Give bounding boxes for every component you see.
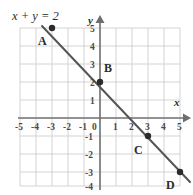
x-tick-label: 4 xyxy=(161,122,166,132)
data-point-b xyxy=(97,79,103,85)
y-tick-labels-positive: 5 4 3 2 1 xyxy=(90,24,95,106)
equation-label: x + y = 2 xyxy=(11,9,59,23)
y-tick-label: -4 xyxy=(85,182,93,192)
point-label-a: A xyxy=(38,34,47,48)
y-axis-arrowhead xyxy=(96,15,105,23)
y-tick-label: 4 xyxy=(90,42,95,52)
graph-svg: A B C D x + y = 2 y x -5 -4 -3 -2 -1 0 1… xyxy=(0,0,193,195)
x-tick-label: -5 xyxy=(15,122,23,132)
x-tick-label: -3 xyxy=(47,122,55,132)
y-tick-label: 1 xyxy=(90,96,95,106)
x-tick-label: 1 xyxy=(113,122,118,132)
x-tick-labels-positive: 1 2 3 4 5 xyxy=(113,122,182,132)
x-tick-label: -4 xyxy=(31,122,39,132)
point-labels: A B C D xyxy=(38,34,175,192)
y-tick-label: -3 xyxy=(85,168,93,178)
y-tick-label: 3 xyxy=(90,60,95,70)
y-tick-label: -2 xyxy=(85,150,93,160)
x-tick-label: 3 xyxy=(145,122,150,132)
x-tick-labels-negative: -5 -4 -3 -2 -1 xyxy=(15,122,87,132)
x-axis-label: x xyxy=(173,96,180,108)
data-point-d xyxy=(177,169,183,175)
x-tick-label: -1 xyxy=(79,122,87,132)
point-label-d: D xyxy=(166,178,175,192)
x-tick-label: 5 xyxy=(177,122,182,132)
origin-label: 0 xyxy=(92,122,97,132)
point-label-b: B xyxy=(104,61,112,75)
data-point-c xyxy=(145,133,151,139)
x-axis-arrowhead xyxy=(183,114,191,123)
x-tick-label: 2 xyxy=(129,122,134,132)
y-tick-label: -1 xyxy=(85,132,93,142)
coordinate-graph-figure: A B C D x + y = 2 y x -5 -4 -3 -2 -1 0 1… xyxy=(0,0,193,195)
x-tick-label: -2 xyxy=(63,122,71,132)
y-tick-label: 5 xyxy=(90,24,95,34)
y-tick-label: 2 xyxy=(90,78,95,88)
data-point-a xyxy=(49,25,55,31)
y-tick-labels-negative: -1 -2 -3 -4 -5 xyxy=(85,132,93,195)
point-label-c: C xyxy=(134,143,143,157)
